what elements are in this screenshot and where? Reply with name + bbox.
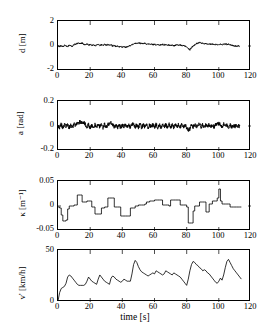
panel-d-xtick-100: 100 [208,71,228,80]
figure-xlabel: time [s] [0,312,270,322]
panel-a-data-line [58,120,240,131]
panel-kappa-ytick-0: 0 [14,200,54,209]
panel-a-xtick-80: 80 [176,151,196,160]
panel-kappa-plot-area [57,180,250,230]
panel-a-xtick-20: 20 [79,151,99,160]
panel-v-plot-area [57,249,250,301]
panel-kappa-xtick-120: 120 [240,231,260,240]
panel-kappa-xtick-40: 40 [111,231,131,240]
panel-v-axes [58,250,251,302]
panel-kappa-ytick-p005: 0.05 [14,176,54,185]
panel-v-xtick-0: 0 [47,302,67,311]
panel-v-xtick-60: 60 [143,302,163,311]
panel-d-axes [58,21,251,71]
panel-v-ytick-50: 50 [24,245,54,254]
panel-v-xtick-80: 80 [176,302,196,311]
panel-a-xtick-120: 120 [240,151,260,160]
panel-v-ylabel: v' [km/h] [17,251,27,315]
panel-kappa-axes [58,181,251,231]
panel-a-xtick-100: 100 [208,151,228,160]
panel-a-axes [58,101,251,151]
panel-kappa-xticks [58,181,251,231]
panel-kappa-data-line [58,189,241,223]
panel-v-xtick-120: 120 [240,302,260,311]
panel-a-plot-area [57,100,250,150]
panel-v-xticks [90,250,219,302]
panel-d-xtick-0: 0 [47,71,67,80]
panel-kappa-xtick-20: 20 [79,231,99,240]
panel-d-xticks [58,21,251,71]
panel-d-xtick-120: 120 [240,71,260,80]
panel-a-ytick-p02: 0.2 [20,96,54,105]
panel-d-xtick-80: 80 [176,71,196,80]
panel-a-xtick-0: 0 [47,151,67,160]
panel-kappa-xtick-80: 80 [176,231,196,240]
panel-d-data-line [58,42,240,50]
panel-v-xtick-100: 100 [208,302,228,311]
panel-kappa-xtick-60: 60 [143,231,163,240]
panel-a-xtick-40: 40 [111,151,131,160]
figure-canvas: d [m] 2 0 -2 [0,0,270,332]
panel-a-xtick-60: 60 [143,151,163,160]
panel-d-xtick-20: 20 [79,71,99,80]
panel-d-ytick-2: 2 [28,16,54,25]
panel-d-xtick-40: 40 [111,71,131,80]
panel-kappa-xtick-100: 100 [208,231,228,240]
panel-d-plot-area [57,20,250,70]
panel-v-data-line [58,259,241,301]
panel-kappa-xtick-0: 0 [47,231,67,240]
panel-d-xtick-60: 60 [143,71,163,80]
panel-a-ytick-0: 0 [20,120,54,129]
panel-v-xtick-40: 40 [111,302,131,311]
panel-v-xtick-20: 20 [79,302,99,311]
panel-d-ytick-0: 0 [28,40,54,49]
